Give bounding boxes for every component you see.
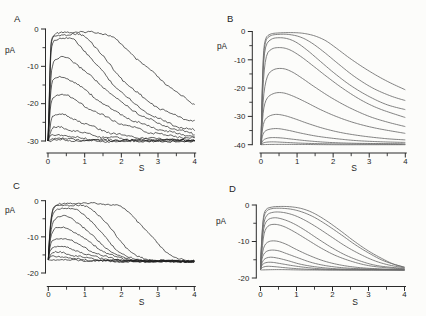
y-tick-label: -30 xyxy=(234,112,246,121)
current-trace xyxy=(261,212,405,270)
panel-label-B: B xyxy=(227,13,233,24)
current-trace xyxy=(48,33,195,141)
x-tick-label: 4 xyxy=(402,290,407,299)
y-axis-unit-label: pA xyxy=(217,42,228,51)
x-tick-label: 3 xyxy=(156,157,160,166)
y-tick-label: 0 xyxy=(245,201,250,210)
current-trace xyxy=(48,76,195,141)
y-tick-label: 0 xyxy=(241,27,246,36)
y-tick-label: 0 xyxy=(34,25,39,34)
y-axis-unit-label: pA xyxy=(5,46,16,55)
current-trace xyxy=(261,48,405,145)
y-tick-label: -10 xyxy=(234,56,246,65)
y-tick-label: -10 xyxy=(238,237,250,246)
panel-D: DpAS0-10-2001234 xyxy=(216,183,407,307)
panel-label-C: C xyxy=(13,180,20,191)
panel-B: BpAS0-10-20-30-4001234 xyxy=(217,13,408,174)
y-tick-label: -20 xyxy=(238,274,250,283)
trace-group xyxy=(48,31,195,142)
y-tick-label: -30 xyxy=(27,137,39,146)
current-trace xyxy=(48,227,194,262)
y-tick-label: -10 xyxy=(27,233,39,242)
current-trace xyxy=(261,241,405,270)
current-trace xyxy=(48,56,195,141)
y-tick-label: -20 xyxy=(234,84,246,93)
x-axis-unit-label: S xyxy=(139,297,145,307)
y-axis xyxy=(248,31,253,145)
y-axis-unit-label: pA xyxy=(216,217,227,226)
current-trace xyxy=(48,208,194,263)
current-trace xyxy=(261,34,405,145)
panel-C: CpAS0-10-2001234 xyxy=(5,180,197,307)
y-tick-label: -20 xyxy=(27,99,39,108)
x-tick-label: 1 xyxy=(83,290,87,299)
x-tick-label: 4 xyxy=(192,290,197,299)
figure-canvas: ApAS0-10-20-3001234BpAS0-10-20-30-400123… xyxy=(0,0,426,316)
x-tick-label: 0 xyxy=(46,157,51,166)
current-trace xyxy=(48,203,194,262)
y-tick-label: -10 xyxy=(27,62,39,71)
x-tick-label: 0 xyxy=(46,290,51,299)
y-axis-unit-label: pA xyxy=(5,206,16,215)
x-tick-label: 0 xyxy=(258,290,263,299)
y-tick-label: 0 xyxy=(34,197,39,206)
current-trace xyxy=(48,126,195,142)
y-tick-label: -40 xyxy=(234,141,246,150)
trace-group xyxy=(261,206,405,270)
four-panel-current-traces-figure: ApAS0-10-20-3001234BpAS0-10-20-30-400123… xyxy=(0,0,426,316)
x-tick-label: 2 xyxy=(119,290,123,299)
trace-group xyxy=(48,203,194,263)
x-tick-label: 3 xyxy=(367,157,371,166)
x-tick-label: 1 xyxy=(294,290,298,299)
y-axis xyxy=(252,205,256,279)
trace-group xyxy=(261,33,405,145)
current-trace xyxy=(48,31,195,141)
current-trace xyxy=(261,33,405,145)
current-trace xyxy=(261,208,405,269)
x-tick-label: 3 xyxy=(366,290,370,299)
current-trace xyxy=(261,93,405,145)
panel-label-A: A xyxy=(14,13,21,24)
x-tick-label: 4 xyxy=(193,157,198,166)
y-tick-label: -20 xyxy=(27,269,39,278)
x-tick-label: 0 xyxy=(259,157,264,166)
panel-A: ApAS0-10-20-3001234 xyxy=(5,13,198,174)
current-trace xyxy=(261,38,405,145)
x-tick-label: 4 xyxy=(403,157,408,166)
x-tick-label: 3 xyxy=(156,290,160,299)
x-axis-unit-label: S xyxy=(351,163,357,173)
x-tick-label: 2 xyxy=(119,157,123,166)
x-tick-label: 1 xyxy=(295,157,299,166)
x-tick-label: 1 xyxy=(83,157,87,166)
y-axis xyxy=(41,29,46,142)
x-axis-unit-label: S xyxy=(139,163,145,173)
x-axis-unit-label: S xyxy=(352,297,358,307)
panel-label-D: D xyxy=(229,183,236,194)
y-axis xyxy=(41,200,46,273)
x-tick-label: 2 xyxy=(331,157,335,166)
x-tick-label: 2 xyxy=(330,290,334,299)
current-trace xyxy=(261,224,405,269)
